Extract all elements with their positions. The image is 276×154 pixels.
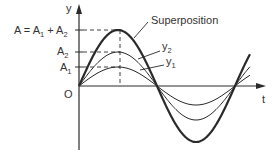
dashed-guides (83, 30, 120, 86)
t-axis-arrow-icon (256, 83, 266, 89)
y-axis (76, 4, 82, 150)
a1-amplitude-label: A1 (60, 61, 72, 76)
t-axis-label: t (262, 93, 265, 105)
a2-amplitude-label: A2 (57, 45, 69, 60)
y-axis-arrow-icon (76, 4, 82, 14)
superposition-label: Superposition (151, 14, 218, 26)
total-amplitude-label: A = A1 + A2 (14, 24, 68, 39)
y2-curve-label: y2 (162, 40, 172, 55)
y1-curve-label: y1 (166, 55, 176, 70)
y-axis-label: y (66, 2, 72, 14)
origin-label: O (64, 88, 73, 100)
superposition-diagram: y t O A = A1 + A2 A2 A1 Superposition y2… (0, 0, 276, 154)
